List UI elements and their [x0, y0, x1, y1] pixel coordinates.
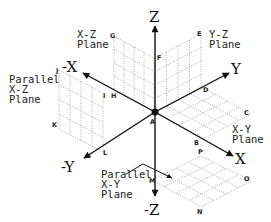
axis-label-y: Y: [230, 60, 242, 78]
label-xy-plane: X-Y Plane: [232, 123, 264, 145]
y-axis-negative: [84, 112, 155, 158]
point-label-i: I: [103, 92, 105, 100]
coordinate-diagram: Z -Z Y -Y X -X X-Z Plane Y-Z Plane X-Y P…: [0, 0, 271, 222]
axis-label-neg-y: -Y: [61, 158, 75, 176]
axis-label-x: X: [235, 150, 246, 168]
label-parallel-xz-plane: Parallel X-Z Plane: [9, 73, 66, 105]
label-yz-plane: Y-Z Plane: [209, 28, 241, 50]
origin-point: [152, 109, 159, 116]
point-label-e: E: [197, 30, 201, 38]
point-label-f: F: [157, 54, 161, 62]
point-label-g: G: [110, 32, 115, 40]
point-label-m: M: [149, 177, 155, 185]
point-label-a: A: [150, 118, 155, 126]
label-xz-plane: X-Z Plane: [77, 28, 109, 50]
point-label-c: C: [244, 109, 249, 117]
point-label-k: K: [52, 121, 58, 129]
axis-label-z: Z: [149, 8, 159, 26]
point-label-j: J: [55, 67, 58, 75]
point-label-n: N: [197, 208, 202, 216]
point-label-p: P: [198, 148, 203, 156]
point-label-o: O: [244, 175, 250, 183]
axis-label-neg-z: -Z: [144, 201, 160, 219]
point-label-l: L: [103, 149, 107, 157]
point-label-b: B: [194, 139, 199, 147]
point-label-d: D: [203, 86, 209, 94]
x-axis-positive: [155, 112, 233, 156]
point-label-h: H: [111, 92, 116, 100]
